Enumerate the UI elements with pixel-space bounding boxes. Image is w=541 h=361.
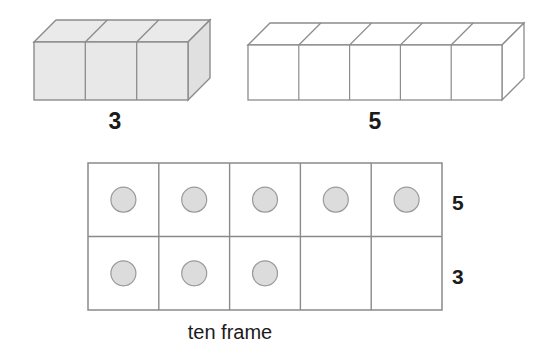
ten-frame-grid (88, 163, 442, 310)
figure-canvas: 3 5 5 3 ten frame (0, 0, 541, 361)
cube-train-left-front-face (34, 42, 188, 100)
cube-train-left (34, 20, 210, 100)
cube-train-right-label: 5 (355, 110, 395, 133)
cube-train-right (248, 23, 524, 100)
ten-frame-dot (111, 187, 136, 212)
ten-frame-dot (323, 187, 348, 212)
ten-frame-dot (111, 261, 136, 286)
ten-frame-row-2-label: 3 (452, 266, 482, 287)
ten-frame-caption: ten frame (0, 322, 460, 342)
ten-frame-dot (253, 261, 278, 286)
figure-vector-layer (0, 0, 541, 361)
ten-frame-dot (182, 187, 207, 212)
cube-train-left-label: 3 (95, 110, 135, 133)
cube-train-right-front-face (248, 45, 502, 100)
cube-train-left-top-face (34, 20, 210, 42)
ten-frame-dot (253, 187, 278, 212)
ten-frame-dot (394, 187, 419, 212)
cube-train-right-top-face (248, 23, 524, 45)
ten-frame-dot (182, 261, 207, 286)
ten-frame-row-1-label: 5 (452, 192, 482, 213)
